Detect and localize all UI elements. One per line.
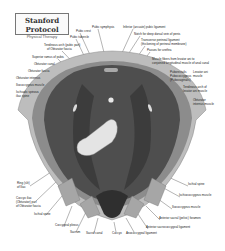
label-bottom: Sacral canal (86, 231, 103, 235)
label-top: Pubic symphysis (92, 25, 114, 29)
label-bottom: Coccyx (112, 231, 122, 235)
label-bottom-right: Iliococcygeus muscle (172, 205, 200, 209)
label-bottom-left: of Iliac (17, 185, 26, 189)
label-bottom: Anococcygeal ligament (126, 231, 157, 235)
label-bottom-left: Coccygeal plexus (55, 223, 79, 227)
label-top: (thickening of perineal membrane) (141, 42, 187, 46)
label-left: Obturator canal (34, 62, 55, 66)
title-subtitle: Physical Therapy (16, 34, 68, 40)
label-left: of Obturator fascia (47, 47, 72, 51)
title-main: Stanford Protocol (16, 16, 68, 34)
label-top: Passes for urethra (147, 48, 172, 52)
title-box: Stanford Protocol Physical Therapy (15, 13, 69, 35)
label-right: (Pubovaginalis) (170, 78, 191, 82)
label-right: conjoined longitudinal muscle of anal ca… (152, 61, 209, 65)
label-top: Pubic crest (76, 29, 91, 33)
label-top: Notch for deep dorsal vein of penis (134, 32, 180, 36)
label-bottom-left: Ischial spine (34, 212, 51, 216)
label-left: Iliococcygeus muscle (16, 83, 44, 87)
label-right: muscle (193, 74, 203, 78)
label-left: Obturator fascia (28, 69, 49, 73)
label-top: Inferior (arcuate) pubic ligament (123, 25, 165, 29)
urethra-opening (108, 97, 113, 102)
label-bottom-right: Ischiococcygeus muscle (179, 193, 211, 197)
label-right: internus muscle (193, 102, 214, 106)
label-left: Superior ramus of pubis (32, 55, 64, 59)
label-left: Obturator internus (16, 76, 40, 80)
label-top: Pubic tubercle (70, 35, 89, 39)
label-bottom-right: Anterior sacral (pelvic) foramen (159, 216, 201, 220)
label-bottom-left: of Obturator fascia (16, 204, 41, 208)
label-right: levator ani muscle (183, 89, 207, 93)
label-bottom-right: Anterior sacrococcygeal ligament (146, 225, 190, 229)
label-bottom: Sacrum (70, 230, 80, 234)
label-bottom-right: Ischial spine (188, 182, 205, 186)
label-left: iliac spine (16, 94, 29, 98)
pubic-symphysis (104, 68, 118, 72)
